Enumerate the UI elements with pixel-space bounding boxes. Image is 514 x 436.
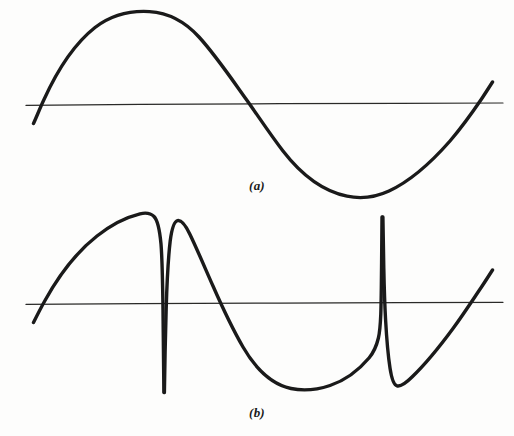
figure-background [0,0,514,436]
figure-container: (a) (b) [0,0,514,436]
waveform-figure-svg [0,0,514,436]
panel-a-label: (a) [0,178,514,194]
panel-b-label: (b) [0,405,514,421]
